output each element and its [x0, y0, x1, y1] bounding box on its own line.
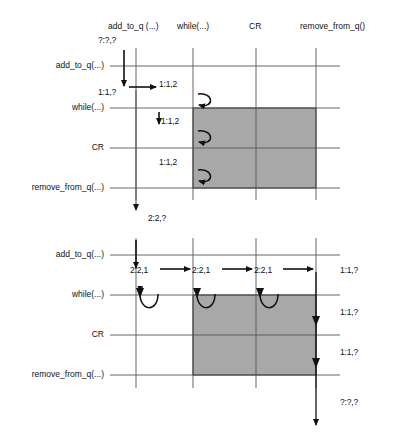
- column-header-remove-from-q: remove_from_q(): [300, 22, 365, 31]
- state-label-lower-addq: 2:2,1: [130, 266, 148, 275]
- row-label-upper-cr: CR: [0, 143, 104, 152]
- column-header-while: while(...): [177, 22, 209, 31]
- self-loop-lower-1: [136, 288, 158, 308]
- interaction-diagram: add_to_q (...) while(...) CR remove_from…: [0, 0, 396, 432]
- state-label-upper-while-3: 1:1,2: [159, 158, 177, 167]
- state-label-lower-cr: 2:2,1: [254, 266, 272, 275]
- row-label-upper-remove-from-q: remove_from_q(...): [0, 183, 104, 192]
- row-label-lower-remove-from-q: remove_from_q(...): [0, 370, 104, 379]
- column-header-add-to-q: add_to_q (...): [108, 22, 159, 31]
- row-label-lower-while: while(...): [0, 290, 104, 299]
- row-label-upper-add-to-q: add_to_q(...): [0, 61, 104, 70]
- state-label-upper-exit: 2:2,?: [148, 214, 166, 223]
- column-header-cr: CR: [249, 22, 261, 31]
- state-label-upper-while-2: 1:1,2: [161, 117, 179, 126]
- state-label-lower-right-3: 1:1,?: [340, 348, 358, 357]
- state-label-lower-right-1: 1:1,?: [340, 266, 358, 275]
- state-label-lower-exit: ?:?,?: [340, 398, 358, 407]
- row-label-upper-while: while(...): [0, 103, 104, 112]
- row-label-lower-cr: CR: [0, 330, 104, 339]
- state-label-upper-addq: 1:1,?: [98, 88, 116, 97]
- state-label-lower-right-2: 1:1,?: [340, 308, 358, 317]
- row-label-lower-add-to-q: add_to_q(...): [0, 250, 104, 259]
- state-label-upper-while-1: 1:1,2: [159, 80, 177, 89]
- state-label-lower-while: 2:2,1: [192, 266, 210, 275]
- state-label-upper-initial: ?:?,?: [98, 36, 116, 45]
- self-loop-upper-1: [198, 94, 211, 106]
